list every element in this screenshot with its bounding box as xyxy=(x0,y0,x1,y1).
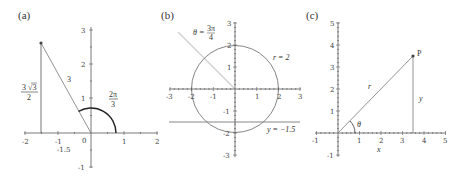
panel-b-theta-numerator: 3π xyxy=(207,24,215,33)
panel-a-angle-denominator: 3 xyxy=(111,100,115,109)
panel-a-xtick: 1 xyxy=(122,138,126,146)
panel-c-label: (c) xyxy=(306,9,319,22)
panel-b-ytick: -1 xyxy=(223,108,230,116)
panel-c-ytick: 5 xyxy=(330,20,334,28)
figure-canvas: (a) -2 -1 0 1 2 xyxy=(0,0,464,177)
panel-c-xtick: -1 xyxy=(312,137,319,145)
panel-c-xtick: 3 xyxy=(400,137,404,145)
panel-b-xtick: -1 xyxy=(210,93,217,101)
panel-b-ytick: 1 xyxy=(227,64,231,72)
panel-c-point-p xyxy=(411,54,414,57)
panel-a: (a) -2 -1 0 1 2 xyxy=(18,9,159,172)
panel-a-label: (a) xyxy=(18,9,31,22)
panel-a-hypotenuse-label: 3 xyxy=(67,75,71,84)
panel-b-line-label: y = −1.5 xyxy=(266,125,295,134)
panel-c-r-label: r xyxy=(368,82,372,91)
panel-b-ytick: -3 xyxy=(223,152,230,160)
panel-b-theta-prefix: θ = xyxy=(193,28,204,37)
panel-b-ytick: 3 xyxy=(227,20,231,28)
panel-b-circle-label: r = 2 xyxy=(273,53,290,62)
panel-b-theta-denominator: 4 xyxy=(209,33,213,42)
panel-a-xtick: -2 xyxy=(22,138,29,146)
panel-b-ray xyxy=(178,32,235,89)
panel-a-ytick: 3 xyxy=(81,27,85,35)
panel-a-height-numerator: 3 √3 xyxy=(22,83,36,92)
panel-a-xtick: 0 xyxy=(82,137,86,145)
panel-a-ytick: -1 xyxy=(78,164,85,172)
panel-b-xtick: 3 xyxy=(298,93,302,101)
panel-b-label: (b) xyxy=(161,9,174,22)
panel-a-xtick: -1 xyxy=(55,138,62,146)
panel-a-xtick: 2 xyxy=(155,138,159,146)
panel-c-x-axis-label: x xyxy=(376,145,381,154)
panel-a-height-denominator: 2 xyxy=(27,93,31,102)
panel-a-ytick: 1 xyxy=(81,95,85,103)
panel-c-xtick: 4 xyxy=(422,137,427,145)
panel-c-theta-arc xyxy=(350,121,355,133)
panel-c-xtick: 2 xyxy=(379,137,383,145)
panel-a-angle-numerator: 2π xyxy=(109,90,117,99)
panel-a-hypotenuse xyxy=(41,43,91,133)
panel-c-ytick: 1 xyxy=(330,108,334,116)
panel-c-xtick: 5 xyxy=(443,137,447,145)
panel-b-xtick: 1 xyxy=(255,93,259,101)
panel-b-ytick: 2 xyxy=(227,42,231,50)
panel-b: (b) -3 - xyxy=(161,9,302,160)
panel-a-ytick: 2 xyxy=(81,61,85,69)
panel-a-extra-tick: -1.5 xyxy=(57,146,71,154)
panel-b-xtick: 2 xyxy=(277,93,281,101)
panel-c-theta-label: θ xyxy=(357,120,361,129)
panel-c-xtick: 1 xyxy=(357,137,361,145)
panel-b-xtick: -2 xyxy=(188,93,195,101)
panel-c-ytick: 3 xyxy=(330,64,334,72)
panel-c-ytick: -1 xyxy=(327,152,334,160)
panel-b-ytick: -2 xyxy=(223,130,230,138)
panel-c-r-segment xyxy=(338,56,413,133)
panel-c-ytick: 4 xyxy=(330,42,335,50)
panel-c: (c) -1 1 2 3 4 5 xyxy=(306,9,447,160)
panel-b-xtick: -3 xyxy=(166,93,173,101)
panel-c-y-label: y xyxy=(418,94,423,103)
panel-a-point xyxy=(39,41,42,44)
panel-c-point-label: P xyxy=(417,49,422,58)
panel-c-ytick: 2 xyxy=(330,86,334,94)
